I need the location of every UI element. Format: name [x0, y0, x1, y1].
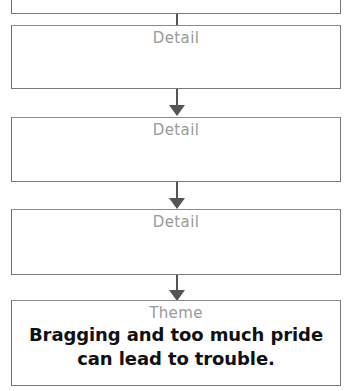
flowchart-node-detail-3[interactable]: Detail: [11, 209, 341, 275]
arrow-head-icon: [169, 198, 185, 209]
flowchart-node-theme[interactable]: Theme Bragging and too much pride can le…: [11, 300, 341, 386]
arrow-head-icon: [169, 105, 185, 116]
connector-arrow-2: [169, 89, 185, 117]
flowchart-node-partial-top[interactable]: [11, 0, 341, 14]
node-body-theme-line-2: can lead to trouble.: [12, 347, 340, 371]
flowchart-node-detail-2[interactable]: Detail: [11, 117, 341, 182]
node-label-detail-1: Detail: [12, 30, 340, 47]
connector-arrow-3: [169, 182, 185, 210]
connector-arrow-4: [169, 275, 185, 301]
node-body-theme-line-1: Bragging and too much pride: [12, 323, 340, 347]
flowchart-canvas: Detail Detail Detail Theme Bragging and …: [0, 0, 354, 391]
node-label-detail-3: Detail: [12, 214, 340, 231]
flowchart-node-detail-1[interactable]: Detail: [11, 25, 341, 89]
node-label-theme: Theme: [12, 305, 340, 322]
node-label-detail-2: Detail: [12, 122, 340, 139]
